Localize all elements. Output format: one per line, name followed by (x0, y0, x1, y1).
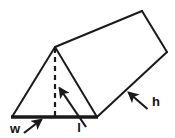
prism-drawing: w l h (0, 0, 175, 138)
prism-diagram-figure: w l h (0, 0, 175, 138)
length-label: l (77, 120, 81, 135)
width-label: w (9, 121, 21, 136)
height-label: h (152, 94, 160, 109)
